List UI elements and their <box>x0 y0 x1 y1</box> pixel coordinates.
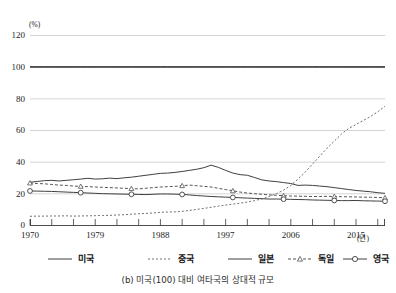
y-tick-label-60: 60 <box>16 125 26 135</box>
y-tick-label-100: 100 <box>12 62 26 72</box>
x-axis-unit-label: (년) <box>357 233 369 243</box>
marker-circle-영국-1991 <box>180 192 185 197</box>
legend-label-독일: 독일 <box>318 253 334 264</box>
marker-circle-영국-1977 <box>78 190 83 195</box>
x-tick-label-1988: 1988 <box>151 230 170 240</box>
legend-label-미국: 미국 <box>78 253 95 264</box>
figure-container: 020406080100120 (%) 19701979198819972006… <box>0 0 396 293</box>
marker-circle-영국-1970 <box>28 189 33 194</box>
y-tick-label-40: 40 <box>16 157 26 167</box>
y-axis-unit-label: (%) <box>29 20 41 29</box>
marker-circle-영국-1998 <box>230 195 235 200</box>
x-tick-label-1970: 1970 <box>21 230 40 240</box>
legend-marker-circle-영국 <box>352 256 357 261</box>
marker-circle-영국-2005 <box>281 197 286 202</box>
y-tick-label-120: 120 <box>12 30 26 40</box>
y-tick-label-0: 0 <box>21 220 26 230</box>
marker-circle-영국-2019 <box>383 199 388 204</box>
x-tick-label-1979: 1979 <box>86 230 105 240</box>
figure-caption: (b) 미국(100) 대비 여타국의 상대적 규모 <box>122 274 275 285</box>
y-tick-label-80: 80 <box>16 94 26 104</box>
legend-label-중국: 중국 <box>178 254 195 264</box>
relative-size-line-chart: 020406080100120 (%) 19701979198819972006… <box>0 0 396 293</box>
marker-circle-영국-2012 <box>332 198 337 203</box>
chart-background <box>0 0 396 293</box>
y-tick-label-20: 20 <box>16 189 26 199</box>
marker-circle-영국-1984 <box>129 192 134 197</box>
legend-label-영국: 영국 <box>373 253 390 264</box>
x-tick-label-1997: 1997 <box>217 230 236 240</box>
x-tick-label-2006: 2006 <box>282 230 301 240</box>
legend-label-일본: 일본 <box>258 253 274 264</box>
